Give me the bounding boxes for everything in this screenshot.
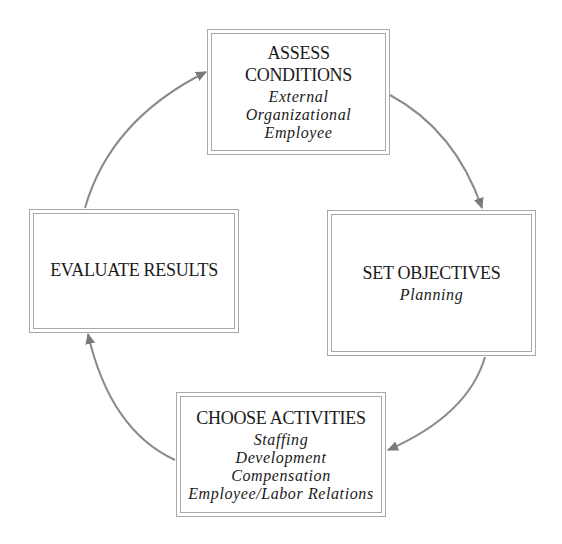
node-item: Organizational [246,106,352,124]
node-evaluate-results: EVALUATE RESULTS [29,209,239,333]
node-title: SET OBJECTIVES [363,262,501,284]
node-title: CHOOSE ACTIVITIES [196,407,365,429]
node-item: External [269,88,329,106]
node-item: Staffing [254,431,309,449]
arrow-assess-to-set [390,95,482,208]
node-assess-conditions: ASSESS CONDITIONS External Organizationa… [207,29,390,155]
arrow-set-to-choose [388,357,485,450]
node-choose-activities: CHOOSE ACTIVITIES Staffing Development C… [176,392,386,517]
node-item: Compensation [231,467,331,485]
node-item: Employee/Labor Relations [188,485,374,503]
node-title: EVALUATE RESULTS [50,259,218,281]
node-item: Employee [265,124,333,142]
arrow-evaluate-to-assess [85,72,206,208]
node-title: ASSESS CONDITIONS [212,42,385,86]
node-item: Development [235,449,326,467]
node-item: Planning [400,286,463,304]
arrow-choose-to-evaluate [88,334,175,460]
node-set-objectives: SET OBJECTIVES Planning [327,210,536,356]
